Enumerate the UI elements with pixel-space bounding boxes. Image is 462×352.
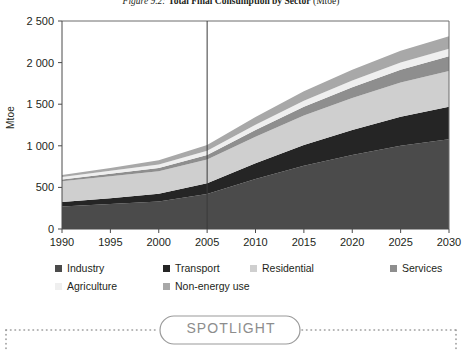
x-tick-label: 2010 (243, 236, 267, 248)
legend-swatch-icon (390, 265, 397, 272)
legend-item-label: Services (402, 262, 442, 274)
x-tick-label: 2000 (147, 236, 171, 248)
x-tick-label: 2030 (437, 236, 461, 248)
spotlight-pill (160, 316, 300, 344)
legend-item-label: Transport (175, 262, 220, 274)
figure-container: Figure 9.2: Total Final Consumption by S… (0, 0, 462, 352)
legend-item-services[interactable]: Services (390, 262, 442, 274)
legend-swatch-icon (55, 265, 62, 272)
x-tick-label: 1995 (98, 236, 122, 248)
y-tick-label: 1 500 (26, 98, 54, 110)
legend-swatch-icon (163, 265, 170, 272)
legend-item-agriculture[interactable]: Agriculture (55, 280, 117, 292)
legend-item-transport[interactable]: Transport (163, 262, 220, 274)
legend-swatch-icon (55, 283, 62, 290)
legend-swatch-icon (250, 265, 257, 272)
y-axis-title: Mtoe (5, 96, 16, 140)
chart-legend: IndustryTransportResidentialServicesAgri… (0, 260, 462, 302)
x-tick-label: 2015 (292, 236, 316, 248)
y-tick-label: 2 000 (26, 57, 54, 69)
chart: 05001 0001 5002 0002 5001990199520002005… (0, 0, 462, 258)
legend-item-residential[interactable]: Residential (250, 262, 314, 274)
stacked-areas-group (62, 36, 449, 229)
spotlight-band: SPOTLIGHT (0, 306, 462, 352)
y-tick-label: 2 500 (26, 15, 54, 27)
y-tick-label: 0 (48, 223, 54, 235)
legend-item-non-energy-use[interactable]: Non-energy use (163, 280, 250, 292)
x-tick-label: 2020 (340, 236, 364, 248)
x-tick-label: 2005 (195, 236, 219, 248)
chart-plot-svg: 05001 0001 5002 0002 5001990199520002005… (0, 0, 462, 258)
y-tick-label: 1 000 (26, 140, 54, 152)
legend-swatch-icon (163, 283, 170, 290)
y-tick-label: 500 (36, 181, 54, 193)
x-tick-label: 2025 (388, 236, 412, 248)
legend-item-label: Agriculture (67, 280, 117, 292)
legend-item-label: Industry (67, 262, 104, 274)
legend-item-industry[interactable]: Industry (55, 262, 104, 274)
legend-item-label: Residential (262, 262, 314, 274)
spotlight-graphics (0, 306, 462, 352)
legend-item-label: Non-energy use (175, 280, 250, 292)
x-tick-label: 1990 (50, 236, 74, 248)
